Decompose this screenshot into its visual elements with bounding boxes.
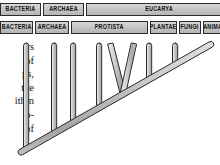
kingdom-box-animalia[interactable]: ANIMALIA xyxy=(203,21,220,34)
domain-label-archaea: ARCHAEA xyxy=(49,6,78,12)
kingdom-box-bacteria[interactable]: BACTERIA xyxy=(0,21,33,34)
kingdom-box-protista[interactable]: PROTISTA xyxy=(71,21,148,34)
domain-box-eucarya[interactable]: EUCARYA xyxy=(86,3,220,16)
kingdom-label-fungi: FUNGI xyxy=(181,24,199,30)
kingdom-label-archaea: ARCHAEA xyxy=(38,24,67,30)
tree-branch-3 xyxy=(71,43,76,124)
domain-box-bacteria[interactable]: BACTERIA xyxy=(0,3,41,16)
phylogenetic-tree xyxy=(0,34,220,165)
domain-box-archaea[interactable]: ARCHAEA xyxy=(43,3,84,16)
kingdom-label-animalia: ANIMALIA xyxy=(203,24,220,30)
tree-branch-4 xyxy=(97,43,102,110)
kingdom-box-archaea[interactable]: ARCHAEA xyxy=(35,21,68,34)
kingdom-label-bacteria: BACTERIA xyxy=(2,24,32,30)
kingdom-label-protista: PROTISTA xyxy=(95,24,124,30)
tree-branch-2 xyxy=(52,43,57,135)
kingdom-label-plantae: PLANTAE xyxy=(150,24,177,30)
domain-label-eucarya: EUCARYA xyxy=(145,6,173,12)
figure-canvas: rs of ps, the ithin o- of xyxy=(0,0,220,165)
kingdom-bar-row: BACTERIA ARCHAEA PROTISTA PLANTAE FUNGI … xyxy=(0,21,220,34)
kingdom-box-fungi[interactable]: FUNGI xyxy=(179,21,201,34)
domain-label-bacteria: BACTERIA xyxy=(6,6,36,12)
tree-branch-1 xyxy=(24,43,29,151)
kingdom-box-plantae[interactable]: PLANTAE xyxy=(150,21,177,34)
domain-bar-row: BACTERIA ARCHAEA EUCARYA xyxy=(0,3,220,16)
